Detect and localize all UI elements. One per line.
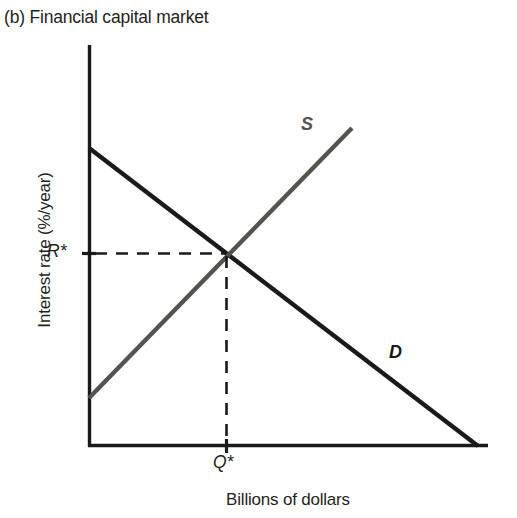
supply-curve: [89, 128, 352, 398]
demand-curve: [89, 148, 478, 446]
financial-capital-market-chart: (b) Financial capital market Interest ra…: [0, 0, 517, 518]
x-axis-equilibrium-label: Q*: [213, 452, 233, 473]
plot-area: [0, 0, 517, 518]
y-axis-equilibrium-label: R*: [47, 241, 66, 262]
demand-curve-label: D: [389, 342, 402, 363]
supply-curve-label: S: [301, 114, 313, 135]
